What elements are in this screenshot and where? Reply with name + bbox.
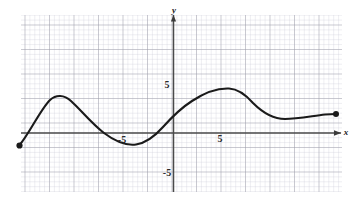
coordinate-plane: y x 5 -5 -5 5	[0, 0, 361, 207]
graph-figure: y x 5 -5 -5 5	[0, 0, 361, 207]
curve-endpoint-left	[16, 142, 22, 148]
grid-background	[21, 15, 342, 192]
curve-endpoint-right	[333, 111, 339, 117]
x-axis-label: x	[343, 127, 349, 137]
x-tick-label-5: 5	[218, 133, 223, 144]
y-tick-label-neg5: -5	[163, 167, 171, 178]
y-axis-label: y	[171, 5, 177, 15]
y-tick-label-5: 5	[165, 79, 170, 90]
